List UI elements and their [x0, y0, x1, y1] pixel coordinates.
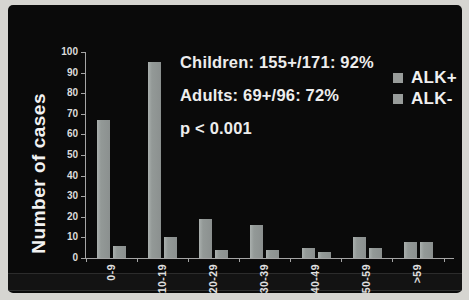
x-category-label: >59 [411, 264, 423, 283]
y-axis-tick [81, 134, 85, 135]
x-axis-tick [137, 258, 138, 262]
y-axis-tick [81, 237, 85, 238]
x-axis-extension [444, 258, 454, 259]
x-category-label: 10-19 [156, 264, 168, 293]
bar-alk-plus-50-59 [353, 237, 366, 258]
bar-alk-plus-30-39 [250, 225, 263, 258]
x-axis-tick [290, 258, 291, 262]
y-axis-tick [81, 114, 85, 115]
y-axis-tick [81, 196, 85, 197]
y-axis-tick [81, 217, 85, 218]
y-axis-tick-label: 0 [47, 251, 78, 265]
y-axis-tick-label: 30 [47, 189, 78, 203]
annotation-adults: Adults: 69+/96: 72% [180, 85, 374, 105]
alk-plus-swatch-icon [393, 73, 403, 83]
annotation-children: Children: 155+/171: 92% [180, 52, 374, 72]
x-category-label: 30-39 [258, 264, 270, 293]
bar-alk-minus-50-59 [369, 248, 382, 258]
y-axis-tick [81, 73, 85, 74]
slide: Number of cases 01020304050607080901000-… [8, 5, 462, 293]
bar-group-0 [86, 52, 137, 258]
page: Number of cases 01020304050607080901000-… [0, 0, 469, 300]
legend-label-alk-plus: ALK+ [411, 68, 457, 88]
y-axis-tick-label: 40 [47, 169, 78, 183]
x-category-label: 0-9 [105, 264, 117, 281]
slide-bottom-band [8, 273, 462, 291]
bar-alk-minus-40-49 [318, 252, 331, 258]
bar-alk-minus-0-9 [113, 246, 126, 258]
legend-label-alk-minus: ALK- [411, 89, 453, 109]
x-axis-tick [188, 258, 189, 262]
bar-alk-plus-10-19 [148, 62, 161, 258]
y-axis-tick-label: 50 [47, 148, 78, 162]
y-axis-tick [81, 93, 85, 94]
x-axis-tick [341, 258, 342, 262]
x-axis-tick [86, 258, 87, 262]
bar-alk-plus-20-29 [199, 219, 212, 258]
bar-alk-plus-gt-59 [404, 242, 417, 258]
x-category-label: 40-49 [309, 264, 321, 293]
x-axis-tick [392, 258, 393, 262]
y-axis-title: Number of cases [28, 93, 50, 254]
y-axis-tick-label: 10 [47, 230, 78, 244]
y-axis-tick-label: 90 [47, 66, 78, 80]
y-axis-tick-label: 20 [47, 210, 78, 224]
y-axis-tick-label: 80 [47, 86, 78, 100]
legend-item-alk-minus: ALK- [393, 88, 457, 109]
bar-alk-minus-30-39 [266, 250, 279, 258]
annotations: Children: 155+/171: 92% Adults: 69+/96: … [180, 52, 374, 138]
y-axis-tick [81, 176, 85, 177]
y-axis-tick-label: 100 [47, 45, 78, 59]
bar-alk-minus-10-19 [164, 237, 177, 258]
annotation-pvalue: p < 0.001 [180, 118, 374, 138]
y-axis-tick [81, 258, 85, 259]
alk-minus-swatch-icon [393, 94, 403, 104]
legend: ALK+ ALK- [393, 67, 457, 109]
bar-alk-minus-gt-59 [420, 242, 433, 258]
x-axis-tick [444, 258, 445, 262]
x-axis-tick [239, 258, 240, 262]
y-axis-tick-label: 70 [47, 107, 78, 121]
bar-alk-minus-20-29 [215, 250, 228, 258]
legend-item-alk-plus: ALK+ [393, 67, 457, 88]
y-axis-tick [81, 155, 85, 156]
y-axis-tick [81, 52, 85, 53]
y-axis-tick-label: 60 [47, 127, 78, 141]
bar-alk-plus-0-9 [97, 120, 110, 258]
x-category-label: 20-29 [207, 264, 219, 293]
bar-alk-plus-40-49 [302, 248, 315, 258]
x-category-label: 50-59 [360, 264, 372, 293]
